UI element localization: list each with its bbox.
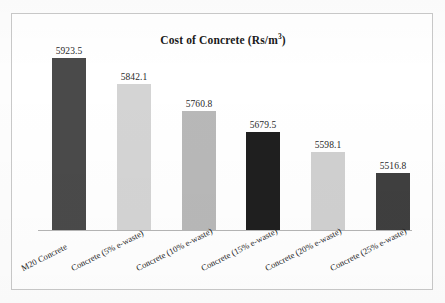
bar-value-label: 5923.5 <box>56 46 83 56</box>
bar-concrete-10-ewaste[interactable] <box>182 111 216 230</box>
bar-value-label: 5760.8 <box>186 99 213 109</box>
bar-value-label: 5842.1 <box>121 72 148 82</box>
bar-group: 5598.1 <box>311 152 345 230</box>
bar-value-label: 5679.5 <box>250 120 277 130</box>
bar-concrete-25-ewaste[interactable] <box>376 173 410 230</box>
bar-group: 5760.8 <box>182 111 216 230</box>
bar-value-label: 5516.8 <box>380 161 407 171</box>
plot-area: 5923.5 5842.1 5760.8 5679.5 5598.1 <box>12 14 434 291</box>
x-axis-label-concrete-5-ewaste: Concrete (5% e-waste) <box>69 228 145 273</box>
bar-m20-concrete[interactable] <box>52 58 86 230</box>
bar-concrete-5-ewaste[interactable] <box>117 84 151 230</box>
bar-group: 5842.1 <box>117 84 151 230</box>
bar-group: 5516.8 <box>376 173 410 230</box>
bar-value-label: 5598.1 <box>315 140 342 150</box>
bar-concrete-15-ewaste[interactable] <box>246 132 280 230</box>
bar-group: 5923.5 <box>52 58 86 230</box>
figure-container: Cost of Concrete (Rs/m3) 5923.5 5842.1 5… <box>0 0 445 303</box>
x-axis-label-m20-concrete: M20 Concrete <box>19 241 68 273</box>
chart-frame: Cost of Concrete (Rs/m3) 5923.5 5842.1 5… <box>11 13 433 290</box>
bar-group: 5679.5 <box>246 132 280 230</box>
bar-concrete-20-ewaste[interactable] <box>311 152 345 230</box>
x-axis-line <box>38 230 412 231</box>
